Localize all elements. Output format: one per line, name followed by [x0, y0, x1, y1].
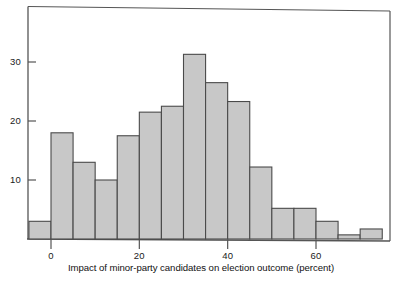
histogram-bar [250, 167, 272, 239]
histogram-bar [161, 106, 183, 239]
histogram-bar [51, 133, 73, 239]
x-axis-label: Impact of minor-party candidates on elec… [0, 262, 402, 273]
histogram-bar [316, 221, 338, 239]
y-tick-label-20: 20 [1, 115, 21, 126]
histogram-figure: 30 20 10 0 20 40 60 Impact of minor-part… [0, 0, 402, 281]
histogram-bars [29, 54, 382, 239]
x-tick-label-60: 60 [305, 250, 327, 261]
histogram-bar [95, 180, 117, 239]
histogram-bar [360, 229, 382, 239]
x-tick-label-40: 40 [217, 250, 239, 261]
histogram-bar [29, 221, 51, 239]
histogram-bar [272, 208, 294, 239]
y-tick-label-30: 30 [1, 56, 21, 67]
plot-top-border [28, 7, 390, 12]
histogram-bar [184, 54, 206, 239]
histogram-bar [117, 136, 139, 239]
histogram-bar [294, 208, 316, 239]
histogram-plot-area [0, 0, 402, 281]
histogram-bar [206, 83, 228, 239]
x-tick-label-0: 0 [40, 250, 62, 261]
histogram-bar [139, 112, 161, 239]
y-tick-label-10: 10 [1, 174, 21, 185]
histogram-bar [338, 235, 360, 239]
histogram-bar [73, 162, 95, 239]
x-tick-label-20: 20 [128, 250, 150, 261]
histogram-bar [228, 102, 250, 239]
